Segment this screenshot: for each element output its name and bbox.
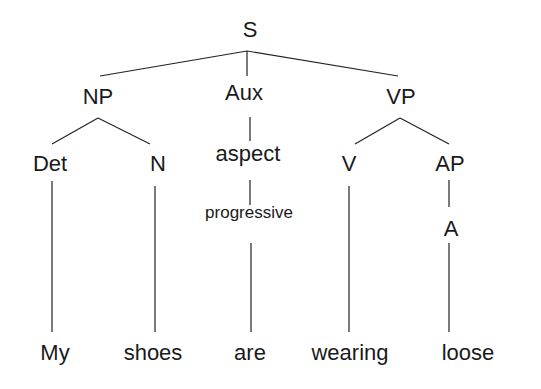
word-loose: loose (442, 342, 495, 364)
node-aspect: aspect (216, 143, 281, 165)
node-vp: VP (386, 86, 415, 108)
tree-edges (0, 0, 541, 389)
word-my: My (40, 342, 69, 364)
node-s: S (243, 19, 258, 41)
edge-s-vp (247, 51, 398, 76)
edge-s-np (100, 51, 247, 76)
word-shoes: shoes (124, 342, 183, 364)
word-are: are (234, 342, 266, 364)
node-ap: AP (435, 153, 464, 175)
node-aux: Aux (225, 82, 263, 104)
edge-vp-ap (400, 118, 449, 144)
edge-vp-v (355, 118, 400, 144)
word-wearing: wearing (311, 342, 388, 364)
edge-np-det (52, 118, 98, 144)
node-a: A (444, 218, 459, 240)
node-progressive: progressive (205, 204, 293, 221)
node-det: Det (33, 153, 67, 175)
node-v: V (342, 153, 357, 175)
node-np: NP (83, 86, 114, 108)
node-n: N (150, 153, 166, 175)
edge-np-n (98, 118, 150, 144)
